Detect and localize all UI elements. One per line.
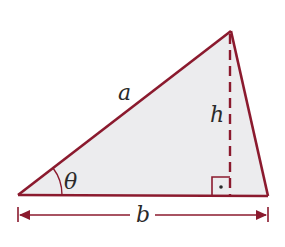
- triangle-diagram: a h θ b: [0, 0, 285, 247]
- side-b: [18, 195, 268, 196]
- label-h: h: [210, 102, 224, 127]
- arrowhead-left-icon: [19, 210, 30, 220]
- right-angle-dot: [219, 185, 223, 189]
- label-theta: θ: [64, 169, 77, 194]
- label-a: a: [118, 80, 131, 105]
- label-b: b: [136, 202, 150, 227]
- arrowhead-right-icon: [256, 210, 267, 220]
